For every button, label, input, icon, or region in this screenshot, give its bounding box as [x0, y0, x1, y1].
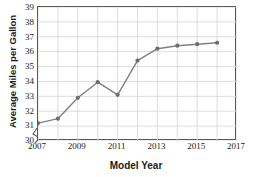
y-tick-label: 37: [10, 33, 34, 42]
data-point-marker: [56, 117, 60, 121]
x-tick-label: 2011: [97, 142, 137, 151]
y-tick-label: 36: [10, 47, 34, 56]
data-point-marker: [175, 44, 179, 48]
x-tick-label: 2009: [57, 142, 97, 151]
y-tick-label: 34: [10, 77, 34, 86]
y-tick-label: 32: [10, 107, 34, 116]
x-tick-label: 2015: [176, 142, 216, 151]
x-axis-title: Model Year: [36, 160, 236, 171]
y-tick-label: 38: [10, 18, 34, 27]
data-point-marker: [38, 121, 40, 125]
data-point-marker: [195, 42, 199, 46]
data-point-marker: [76, 96, 80, 100]
plot-area: [37, 6, 236, 140]
y-tick-label: 35: [10, 62, 34, 71]
x-tick-label: 2017: [216, 142, 256, 151]
y-tick-label: 39: [10, 3, 34, 12]
x-tick-label: 2013: [136, 142, 176, 151]
data-point-marker: [215, 41, 219, 45]
data-point-marker: [135, 59, 139, 63]
plot-svg: [38, 7, 237, 141]
y-tick-label: 33: [10, 92, 34, 101]
chart-title-strip: [0, 0, 272, 5]
data-point-marker: [155, 47, 159, 51]
data-point-marker: [116, 93, 120, 97]
chart-figure: Average Miles per Gallon Model Year 39 3…: [0, 0, 272, 177]
data-point-marker: [96, 80, 100, 84]
